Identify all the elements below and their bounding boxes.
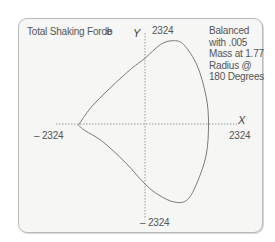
x-min-tick: – 2324 (34, 130, 63, 141)
y-min-tick: – 2324 (140, 217, 169, 228)
y-axis-label: Y (133, 27, 140, 39)
x-max-tick: 2324 (229, 130, 250, 141)
unit-label: lb (105, 26, 112, 37)
x-axis-label: X (238, 114, 245, 126)
balance-annotation: Balanced with .005 Mass at 1.77 Radius @… (209, 25, 265, 83)
y-max-tick: 2324 (152, 25, 173, 36)
chart-title: Total Shaking Force (27, 26, 112, 37)
force-locus-curve (78, 41, 208, 203)
